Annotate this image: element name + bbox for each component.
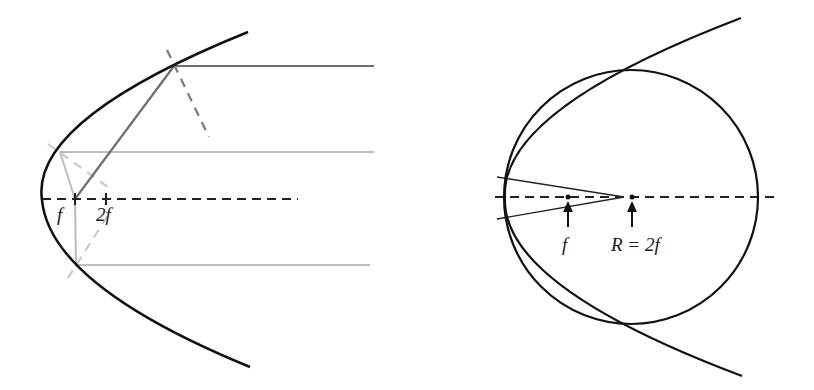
focus-point (566, 195, 571, 200)
double-focus-label: 2f (96, 204, 114, 225)
center-arrow-head (627, 201, 637, 212)
right-panel: f R = 2f (495, 18, 778, 376)
center-point (630, 195, 635, 200)
focus-label-right: f (562, 234, 570, 255)
converging-ray-upper (497, 177, 624, 197)
reflected-ray-top (75, 66, 174, 199)
normal-middle (48, 144, 112, 190)
converging-ray-lower (497, 197, 624, 219)
focus-label-left: f (57, 204, 65, 225)
radius-label: R = 2f (610, 234, 662, 255)
figure: f 2f f R = 2f (0, 0, 814, 390)
reflected-ray-lower (75, 199, 76, 265)
normal-top (167, 50, 209, 137)
left-panel: f 2f (41, 32, 374, 367)
